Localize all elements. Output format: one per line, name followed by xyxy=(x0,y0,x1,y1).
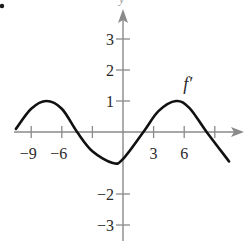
derivative-graph: y −9−636321−2−3 f′ xyxy=(0,0,250,241)
y-tick-label: 1 xyxy=(106,93,114,110)
curve-label-f-prime: f′ xyxy=(183,74,193,94)
y-tick-label: −2 xyxy=(97,186,114,203)
y-tick-label: 2 xyxy=(106,62,114,79)
bullet-marker xyxy=(0,4,4,8)
x-tick-label: −9 xyxy=(20,145,37,162)
y-tick-label: 3 xyxy=(106,31,114,48)
y-tick-label: −3 xyxy=(97,217,114,234)
x-tick-label: 6 xyxy=(180,145,188,162)
x-tick-label: 3 xyxy=(150,145,158,162)
y-axis-letter: y xyxy=(118,0,125,6)
x-tick-label: −6 xyxy=(50,145,67,162)
